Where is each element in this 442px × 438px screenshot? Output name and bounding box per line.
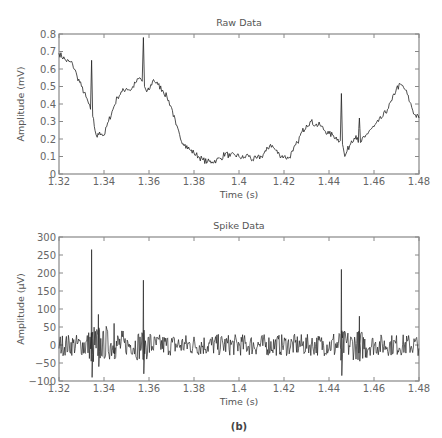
- y-tick-label: 0.8: [40, 29, 56, 40]
- x-tick-label: 1.46: [363, 383, 385, 394]
- y-tick-label: 0.6: [40, 64, 56, 75]
- y-tick-label: 0.4: [40, 99, 56, 110]
- x-tick-label: 1.4: [231, 176, 247, 187]
- y-tick-label: 250: [37, 250, 56, 261]
- spike-data-line: [59, 250, 419, 378]
- x-axis-label: Time (s): [219, 189, 259, 200]
- x-tick-label: 1.38: [183, 383, 205, 394]
- chart-title: Spike Data: [213, 220, 264, 231]
- x-tick-label: 1.42: [273, 383, 295, 394]
- x-tick-label: 1.4: [231, 383, 247, 394]
- y-tick-label: 150: [37, 286, 56, 297]
- x-axis-label: Time (s): [219, 396, 259, 407]
- x-tick-label: 1.38: [183, 176, 205, 187]
- raw-data-line: [59, 38, 419, 164]
- x-tick-label: 1.48: [408, 383, 430, 394]
- spike-data-chart: Spike Data1.321.341.361.381.41.421.441.4…: [15, 220, 430, 407]
- y-tick-label: −100: [29, 376, 56, 387]
- y-tick-label: −50: [35, 358, 56, 369]
- y-tick-label: 100: [37, 304, 56, 315]
- y-tick-label: 0: [50, 340, 56, 351]
- y-tick-label: 0.1: [40, 151, 56, 162]
- x-tick-label: 1.34: [93, 383, 115, 394]
- y-tick-label: 0.5: [40, 81, 56, 92]
- y-tick-label: 0.2: [40, 134, 56, 145]
- y-tick-label: 50: [43, 322, 56, 333]
- x-tick-label: 1.44: [318, 383, 340, 394]
- plot-frame: [59, 237, 419, 381]
- y-tick-label: 0: [50, 169, 56, 180]
- y-tick-label: 300: [37, 232, 56, 243]
- y-tick-label: 200: [37, 268, 56, 279]
- raw-data-chart: Raw Data1.321.341.361.381.41.421.441.461…: [15, 17, 430, 200]
- y-axis-label: Amplitude (μV): [15, 273, 26, 345]
- chart-title: Raw Data: [216, 17, 262, 28]
- x-tick-label: 1.36: [138, 176, 160, 187]
- y-tick-label: 0.3: [40, 116, 56, 127]
- plot-frame: [59, 34, 419, 174]
- x-tick-label: 1.48: [408, 176, 430, 187]
- x-tick-label: 1.36: [138, 383, 160, 394]
- x-tick-label: 1.46: [363, 176, 385, 187]
- y-tick-label: 0.7: [40, 46, 56, 57]
- x-tick-label: 1.42: [273, 176, 295, 187]
- x-tick-label: 1.44: [318, 176, 340, 187]
- x-tick-label: 1.34: [93, 176, 115, 187]
- figure: Raw Data1.321.341.361.381.41.421.441.461…: [0, 0, 442, 438]
- y-axis-label: Amplitude (mV): [15, 67, 26, 142]
- figure-caption: (b): [231, 421, 247, 432]
